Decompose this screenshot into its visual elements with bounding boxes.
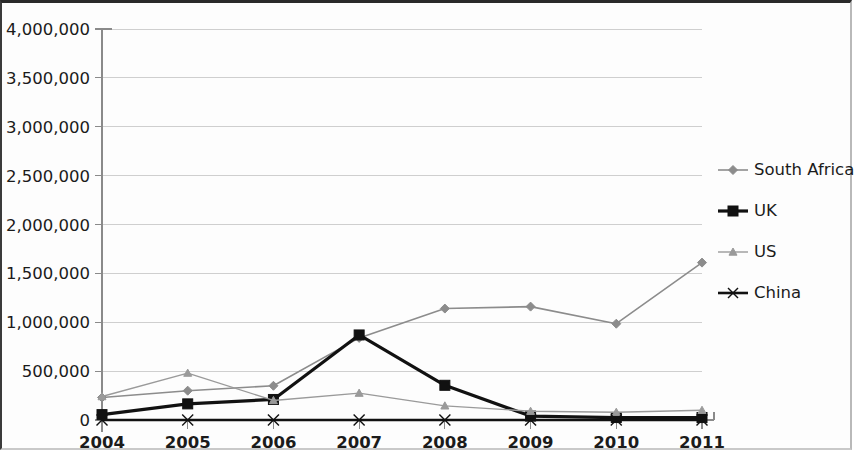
y-tick-label: 3,500,000 [6, 69, 90, 88]
y-tick-label: 0 [80, 411, 91, 430]
marker-square [183, 399, 193, 409]
series-polyline [102, 263, 702, 398]
marker-square [728, 206, 738, 216]
marker-square [354, 330, 364, 340]
marker-square [440, 380, 450, 390]
legend-label: US [754, 242, 777, 261]
legend-label: South Africa [754, 160, 854, 179]
marker-diamond [729, 166, 738, 175]
y-tick-label: 2,500,000 [6, 167, 90, 186]
marker-diamond [440, 304, 449, 313]
legend-label: China [754, 283, 801, 302]
y-tick-label: 3,000,000 [6, 118, 90, 137]
line-chart: 0500,0001,000,0001,500,0002,000,0002,500… [2, 3, 854, 450]
x-axis-tick-labels: 20042005200620072008200920102011 [79, 433, 725, 450]
x-tick-label: 2008 [422, 433, 468, 450]
legend-item-south-africa: South Africa [718, 160, 854, 179]
y-tick-label: 1,500,000 [6, 264, 90, 283]
x-tick-label: 2011 [679, 433, 725, 450]
y-tick-label: 500,000 [22, 362, 90, 381]
legend-item-china: China [718, 283, 801, 302]
y-axis-tick-labels: 0500,0001,000,0001,500,0002,000,0002,500… [6, 20, 90, 430]
legend-label: UK [754, 201, 778, 220]
x-tick-label: 2007 [336, 433, 382, 450]
y-tick-label: 1,000,000 [6, 313, 90, 332]
series-south-africa [98, 258, 707, 402]
y-tick-label: 4,000,000 [6, 20, 90, 39]
x-tick-label: 2006 [250, 433, 296, 450]
x-tick-label: 2004 [79, 433, 125, 450]
marker-triangle [184, 369, 192, 376]
x-tick-label: 2005 [165, 433, 211, 450]
marker-diamond [269, 381, 278, 390]
legend-item-us: US [718, 242, 777, 261]
marker-diamond [526, 302, 535, 311]
marker-square [97, 410, 107, 420]
marker-diamond [183, 386, 192, 395]
x-tick-label: 2009 [508, 433, 554, 450]
chart-legend: South AfricaUKUSChina [718, 160, 854, 302]
y-tick-label: 2,000,000 [6, 216, 90, 235]
x-tick-label: 2010 [593, 433, 639, 450]
legend-item-uk: UK [718, 201, 778, 220]
data-series [97, 258, 708, 425]
